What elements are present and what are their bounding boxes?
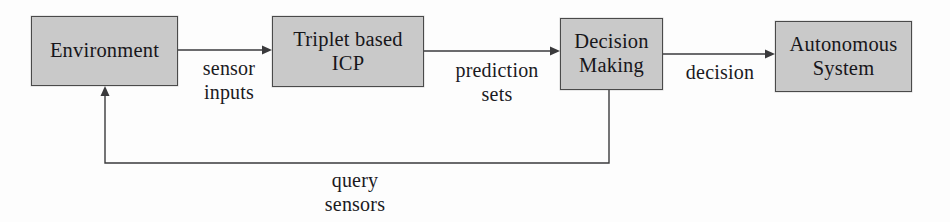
node-autonomous-line1: Autonomous (790, 33, 898, 57)
node-triplet-based-icp[interactable]: Triplet based ICP (272, 16, 424, 87)
node-autonomous-line2: System (813, 57, 875, 81)
edge-label-prediction-sets: prediction sets (432, 58, 562, 106)
edge-label-decision: decision (668, 60, 772, 84)
node-decision-making[interactable]: Decision Making (560, 18, 663, 90)
node-environment-line1: Environment (50, 39, 159, 63)
edge-label-sensor-inputs-line2: inputs (183, 80, 275, 104)
node-triplet-line2: ICP (332, 52, 365, 76)
edge-triplet-to-decision (424, 47, 560, 56)
edge-environment-to-triplet (178, 46, 272, 55)
node-decision-line1: Decision (574, 30, 648, 54)
edge-label-decision-line1: decision (668, 60, 772, 84)
edge-label-sensor-inputs: sensor inputs (183, 56, 275, 104)
edge-label-query-sensors-line1: query (295, 168, 415, 192)
node-environment[interactable]: Environment (31, 16, 178, 86)
node-triplet-line1: Triplet based (293, 28, 402, 52)
node-decision-line2: Making (579, 54, 644, 78)
node-autonomous-system[interactable]: Autonomous System (775, 21, 912, 92)
edge-label-prediction-sets-line2: sets (432, 82, 562, 106)
edge-label-query-sensors: query sensors (295, 168, 415, 216)
edge-label-prediction-sets-line1: prediction (432, 58, 562, 82)
edge-decision-to-autonomous (663, 50, 775, 59)
edge-label-sensor-inputs-line1: sensor (183, 56, 275, 80)
edge-label-query-sensors-line2: sensors (295, 192, 415, 216)
diagram-canvas: Environment Triplet based ICP Decision M… (0, 0, 950, 222)
